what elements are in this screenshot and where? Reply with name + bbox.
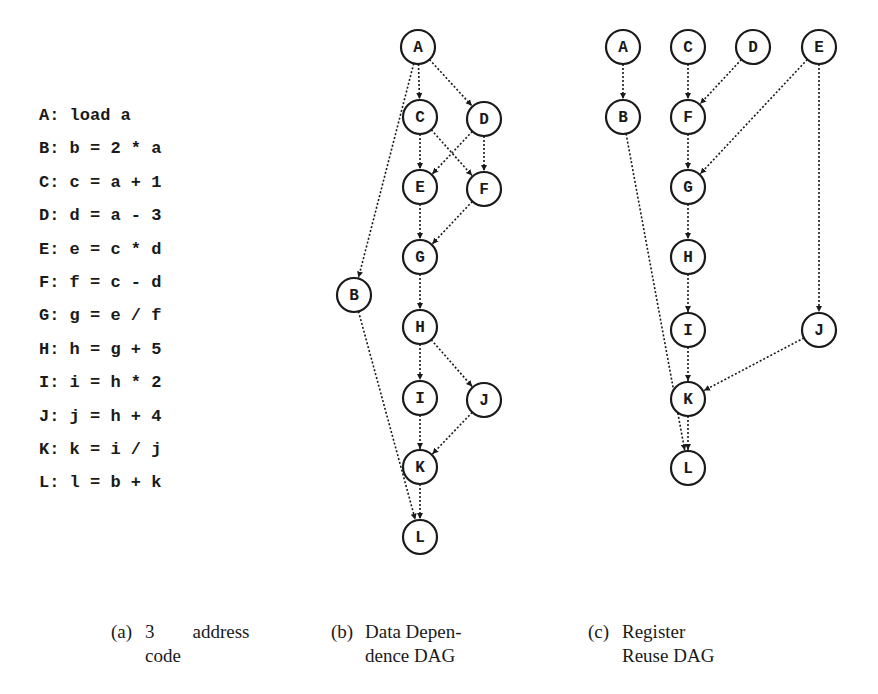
edge-F-G <box>432 201 472 244</box>
node-J: J <box>802 313 836 347</box>
node-D: D <box>736 30 770 64</box>
caption-c-line1: Register <box>622 621 685 642</box>
edge-J-K <box>704 338 804 391</box>
node-label: K <box>683 391 693 409</box>
node-label: B <box>349 287 359 305</box>
node-label: A <box>618 39 628 57</box>
edge-D-F <box>700 59 741 103</box>
node-H: H <box>403 310 437 344</box>
edge-A-D <box>429 60 471 106</box>
caption-a-line1: 3 address <box>145 621 249 642</box>
node-G: G <box>403 240 437 274</box>
caption-b-line2: dence DAG <box>331 644 462 668</box>
node-label: G <box>415 249 425 267</box>
node-label: J <box>814 322 824 340</box>
edge-H-J <box>431 340 472 387</box>
edge-A-C <box>418 64 419 99</box>
caption-a-line2: code <box>111 644 249 668</box>
node-label: L <box>415 529 425 547</box>
edge-E-G <box>700 59 807 173</box>
caption-c-line2: Reuse DAG <box>588 644 714 668</box>
data-dependence-dag: ACDEFGBHIJKL <box>337 30 501 554</box>
edge-J-K <box>432 412 472 454</box>
node-F: F <box>671 100 705 134</box>
caption-c: (c)Register Reuse DAG <box>588 620 714 668</box>
node-L: L <box>403 520 437 554</box>
node-A: A <box>401 30 435 64</box>
node-label: A <box>413 39 423 57</box>
node-label: I <box>415 390 425 408</box>
node-label: F <box>683 109 693 127</box>
node-label: J <box>479 392 489 410</box>
node-C: C <box>403 100 437 134</box>
node-F: F <box>467 172 501 206</box>
node-B: B <box>606 100 640 134</box>
edge-B-L <box>358 311 415 519</box>
node-label: E <box>415 179 425 197</box>
node-B: B <box>337 278 371 312</box>
node-L: L <box>671 451 705 485</box>
node-label: F <box>479 181 489 199</box>
node-label: D <box>479 111 489 129</box>
edge-D-E <box>432 131 472 174</box>
node-C: C <box>671 30 705 64</box>
caption-b: (b)Data Depen- dence DAG <box>331 620 462 668</box>
node-label: B <box>618 109 628 127</box>
node-A: A <box>606 30 640 64</box>
caption-a-tag: (a) <box>111 620 145 644</box>
dag-figures: ACDEFGBHIJKL ACDEBFGHIJKL <box>0 0 878 694</box>
node-H: H <box>671 240 705 274</box>
node-D: D <box>467 102 501 136</box>
node-E: E <box>403 170 437 204</box>
node-I: I <box>403 381 437 415</box>
register-reuse-dag: ACDEBFGHIJKL <box>606 30 836 485</box>
node-label: K <box>415 459 425 477</box>
node-label: L <box>683 460 693 478</box>
node-label: C <box>683 39 693 57</box>
node-label: H <box>683 249 693 267</box>
node-J: J <box>467 383 501 417</box>
node-label: C <box>415 109 425 127</box>
caption-c-tag: (c) <box>588 620 622 644</box>
node-label: D <box>748 39 758 57</box>
caption-b-line1: Data Depen- <box>365 621 462 642</box>
node-I: I <box>671 313 705 347</box>
node-K: K <box>403 450 437 484</box>
caption-b-tag: (b) <box>331 620 365 644</box>
edge-A-B <box>358 63 413 277</box>
node-G: G <box>671 170 705 204</box>
caption-a: (a)3 address code <box>111 620 249 668</box>
node-label: H <box>415 319 425 337</box>
node-label: E <box>814 39 824 57</box>
node-label: I <box>683 322 693 340</box>
node-label: G <box>683 179 693 197</box>
node-K: K <box>671 382 705 416</box>
node-E: E <box>802 30 836 64</box>
